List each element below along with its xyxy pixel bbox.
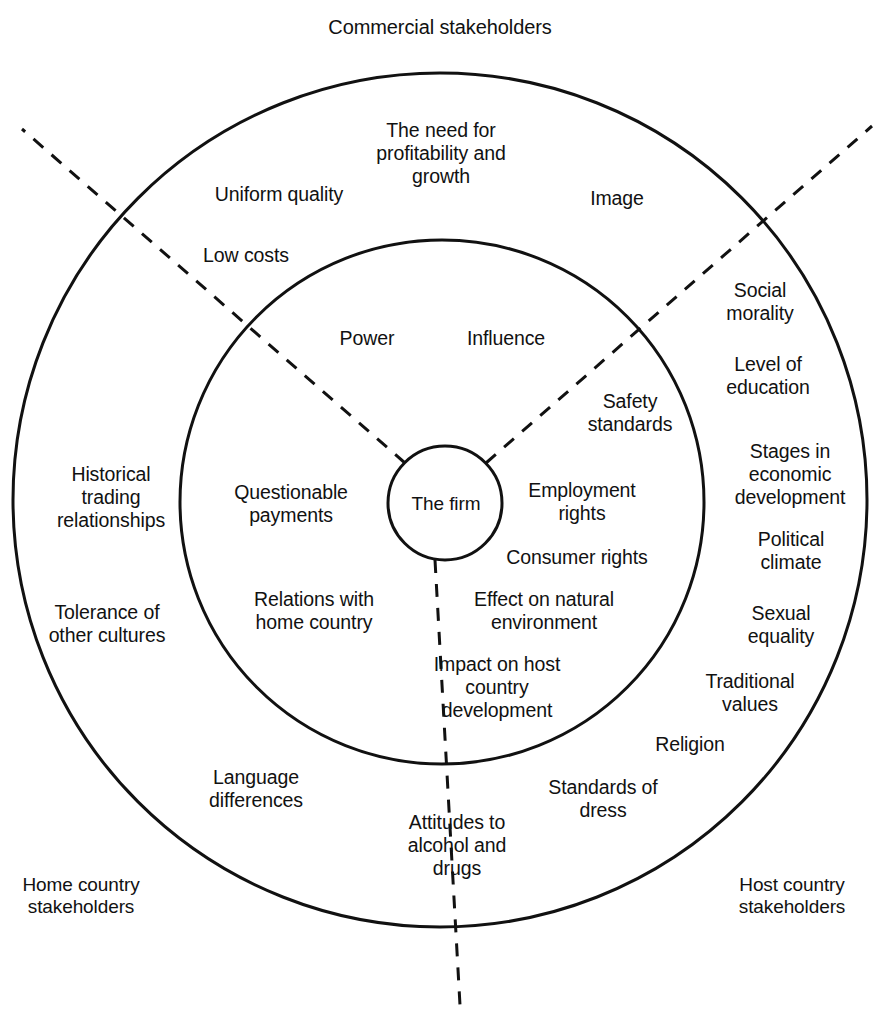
caption-home-country-stakeholders: Home country stakeholders (22, 874, 139, 919)
diagram-title: Commercial stakeholders (328, 16, 551, 40)
outer-item-the-need-for-profitability-and-growth: The need for profitability and growth (376, 119, 505, 188)
outer-item-safety-standards: Safety standards (588, 390, 673, 436)
outer-item-sexual-equality: Sexual equality (748, 602, 814, 648)
outer-item-level-of-education: Level of education (726, 353, 810, 399)
inner-item-effect-on-natural-environment: Effect on natural environment (474, 588, 614, 634)
outer-item-traditional-values: Traditional values (705, 670, 794, 716)
outer-item-tolerance-of-other-cultures: Tolerance of other cultures (49, 601, 166, 647)
inner-item-power: Power (340, 327, 395, 350)
inner-item-influence: Influence (467, 327, 545, 350)
outer-item-attitudes-to-alcohol-and-drugs: Attitudes to alcohol and drugs (408, 811, 507, 880)
outer-item-uniform-quality: Uniform quality (215, 183, 344, 206)
outer-item-low-costs: Low costs (203, 244, 289, 267)
stakeholder-circles-diagram: Commercial stakeholders The firm Power I… (0, 0, 879, 1033)
caption-host-country-stakeholders: Host country stakeholders (739, 874, 846, 919)
outer-item-religion: Religion (655, 733, 725, 756)
outer-item-social-morality: Social morality (726, 279, 793, 325)
inner-item-impact-on-host-country-development: Impact on host country development (434, 653, 561, 722)
inner-item-consumer-rights: Consumer rights (506, 546, 648, 569)
inner-item-relations-with-home-country: Relations with home country (254, 588, 374, 634)
outer-item-standards-of-dress: Standards of dress (548, 776, 657, 822)
outer-item-stages-in-economic-development: Stages in economic development (735, 440, 846, 509)
inner-item-employment-rights: Employment rights (528, 479, 635, 525)
outer-item-language-differences: Language differences (209, 766, 303, 812)
inner-item-questionable-payments: Questionable payments (234, 481, 348, 527)
outer-item-image: Image (590, 187, 644, 210)
core-label-the-firm: The firm (412, 493, 481, 515)
outer-item-historical-trading-relationships: Historical trading relationships (57, 463, 165, 532)
outer-item-political-climate: Political climate (758, 528, 824, 574)
